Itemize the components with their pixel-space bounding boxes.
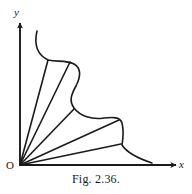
origin-label: O — [6, 160, 14, 171]
figure-container: y x O Fig. 2.36. — [0, 0, 192, 194]
radius-vector-rays — [20, 60, 121, 165]
figure-drawing — [0, 0, 192, 194]
ray-1 — [20, 60, 48, 165]
ray-5 — [20, 144, 121, 165]
figure-caption: Fig. 2.36. — [0, 172, 192, 187]
y-axis-label: y — [14, 7, 19, 18]
x-axis-label: x — [179, 159, 184, 170]
ray-4 — [20, 120, 119, 165]
ray-2 — [20, 62, 70, 165]
